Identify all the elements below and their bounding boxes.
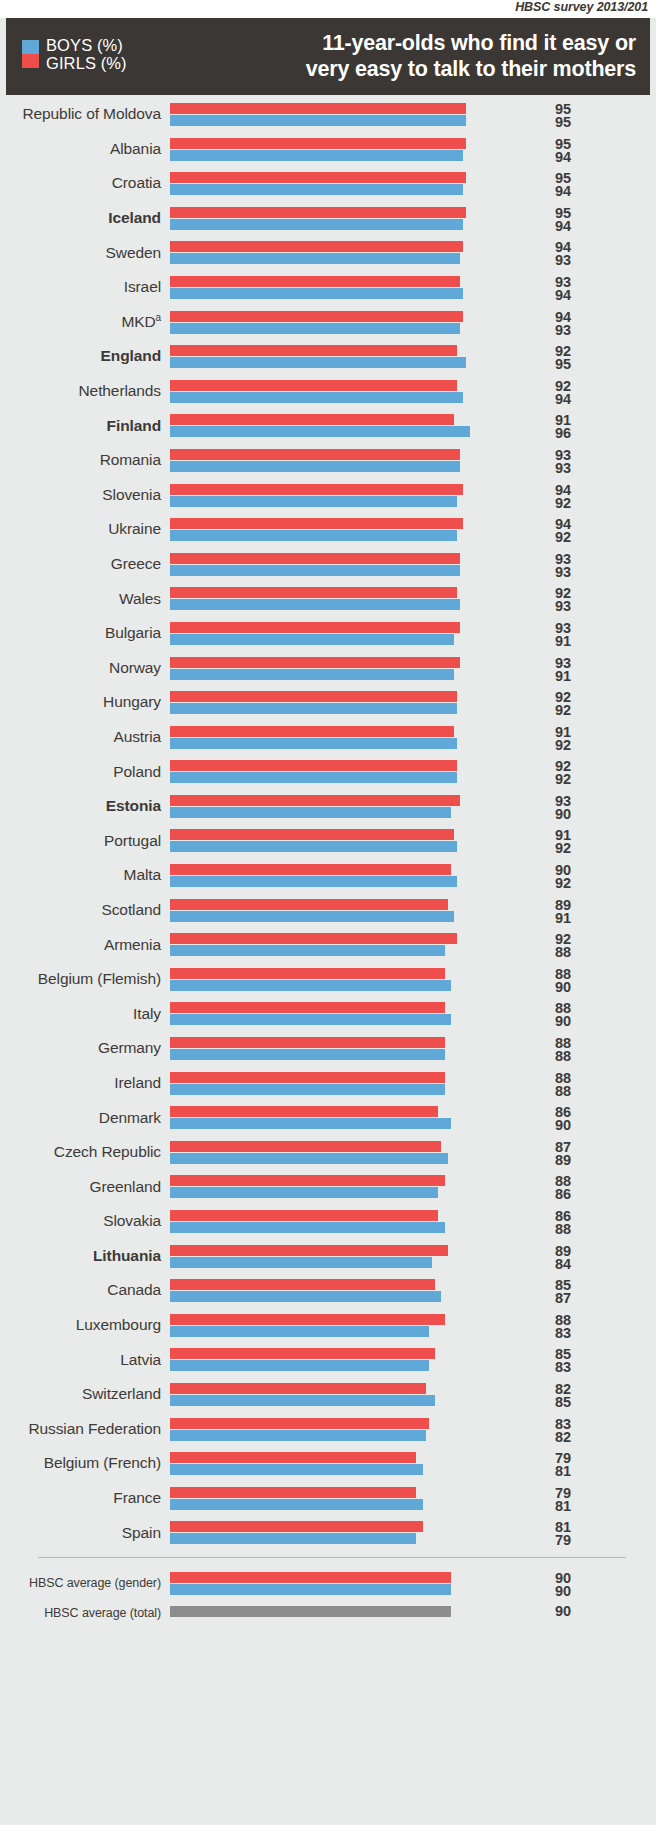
bar-girls [170,1487,416,1498]
row-values: 8888 [497,1066,656,1101]
bar-boys [170,1499,423,1510]
bar-girls [170,1175,445,1186]
value-boys: 93 [555,598,571,614]
row-bars [170,374,497,409]
bar-girls [170,1072,445,1083]
bar-boys [170,1118,451,1129]
bar-girls [170,795,460,806]
separator-line [38,1557,626,1558]
row-bars [170,616,497,651]
row-values: 9493 [497,305,656,340]
value-boys: 91 [555,633,571,649]
row-bars [170,305,497,340]
row-label-greenland: Greenland [0,1178,170,1196]
chart-row: Slovenia9492 [0,478,656,513]
row-values: 9292 [497,685,656,720]
bar-boys [170,530,457,541]
bar-girls [170,311,463,322]
row-bars [170,962,497,997]
bar-girls [170,1002,445,1013]
value-boys: 87 [555,1290,571,1306]
row-label-armenia: Armenia [0,936,170,954]
value-boys: 92 [555,737,571,753]
chart-row: Ukraine9492 [0,512,656,547]
chart-row: Poland9292 [0,754,656,789]
value-boys: 88 [555,1083,571,1099]
row-values: 9393 [497,443,656,478]
row-label-romania: Romania [0,451,170,469]
bar-girls [170,414,454,425]
chart-row: Ireland8888 [0,1066,656,1101]
chart-row: Israel9394 [0,270,656,305]
row-label-hungary: Hungary [0,693,170,711]
bottom-strip [0,1825,656,1833]
row-values: 8888 [497,1031,656,1066]
bar-boys [170,288,463,299]
chart-row: Latvia8583 [0,1342,656,1377]
bar-girls [170,691,457,702]
row-bars [170,581,497,616]
row-values: 8587 [497,1273,656,1308]
row-bars [170,754,497,789]
row-bars [170,408,497,443]
bar-boys [170,1464,423,1475]
chart-row: Croatia9594 [0,166,656,201]
chart-row: Estonia9390 [0,789,656,824]
row-label-israel: Israel [0,278,170,296]
bar-girls [170,1037,445,1048]
bar-girls [170,484,463,495]
row-values: 9390 [497,789,656,824]
chart-row: Russian Federation8382 [0,1412,656,1447]
bar-boys [170,1187,438,1198]
row-values: 9295 [497,339,656,374]
row-label-belgium-flemish: Belgium (Flemish) [0,970,170,988]
row-values: 8688 [497,1204,656,1239]
bar-boys [170,599,460,610]
bar-boys [170,1291,441,1302]
bar-girls [170,622,460,633]
row-bars [170,1031,497,1066]
chart-row: Austria9192 [0,720,656,755]
bar-girls [170,1245,448,1256]
row-bars [170,1100,497,1135]
row-bars [170,1515,497,1550]
row-label-estonia: Estonia [0,797,170,815]
value-boys: 94 [555,149,571,165]
bar-boys [170,426,470,437]
value-boys: 81 [555,1498,571,1514]
value-boys: 79 [555,1532,571,1548]
bar-girls [170,657,460,668]
chart-row: Hungary9292 [0,685,656,720]
bar-boys [170,1014,451,1025]
bar-boys [170,1430,426,1441]
row-values: 9294 [497,374,656,409]
average-total-label: HBSC average (total) [0,1606,170,1620]
row-values: 9196 [497,408,656,443]
value-boys: 91 [555,668,571,684]
legend-swatch-girls-icon [22,54,39,68]
value-boys: 90 [555,1013,571,1029]
bar-girls [170,138,466,149]
chart-body: Republic of Moldova9595Albania9594Croati… [0,97,656,1626]
value-boys: 81 [555,1463,571,1479]
value-boys: 86 [555,1186,571,1202]
value-boys: 92 [555,495,571,511]
bar-boys [170,738,457,749]
chart-row: Greece9393 [0,547,656,582]
value-boys: 93 [555,564,571,580]
row-bars [170,1273,497,1308]
row-label-luxembourg: Luxembourg [0,1316,170,1334]
row-label-latvia: Latvia [0,1351,170,1369]
row-values: 9492 [497,478,656,513]
row-values: 7981 [497,1446,656,1481]
row-label-ukraine: Ukraine [0,520,170,538]
average-value-boys: 90 [555,1583,571,1599]
chart-row: Romania9393 [0,443,656,478]
row-values: 9594 [497,132,656,167]
bar-boys [170,219,463,230]
value-boys: 88 [555,944,571,960]
value-boys: 92 [555,875,571,891]
bar-boys [170,150,463,161]
row-values: 8984 [497,1239,656,1274]
value-boys: 83 [555,1359,571,1375]
